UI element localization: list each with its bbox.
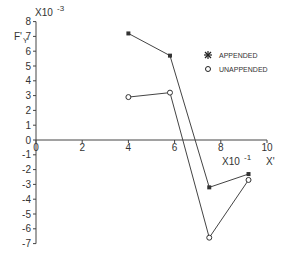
y-axis-label-subscript: Y (23, 37, 28, 44)
y-tick-label: -4 (22, 194, 31, 205)
y-tick-label: -3 (22, 179, 31, 190)
y-multiplier-exponent: -3 (57, 4, 65, 13)
x-tick-label: 6 (172, 142, 178, 153)
y-tick-label: 6 (25, 46, 31, 57)
legend-label-unappended: UNAPPENDED (219, 66, 268, 73)
y-tick-label: -6 (22, 223, 31, 234)
x-tick-label: 4 (126, 142, 132, 153)
legend: APPENDED UNAPPENDED (204, 51, 268, 73)
y-tick-label: 5 (25, 61, 31, 72)
y-tick-label: 8 (25, 16, 31, 27)
y-tick-label: 1 (25, 120, 31, 131)
x-tick-label: 10 (261, 142, 273, 153)
x-tick-label: 0 (33, 142, 39, 153)
data-point (246, 177, 251, 182)
y-tick-label: 3 (25, 90, 31, 101)
chart: -7-6-5-4-3-2-10123456780246810 F' Y X10 … (0, 0, 287, 260)
x-axis-label: X' (266, 156, 275, 167)
x-multiplier-exponent: -1 (244, 153, 252, 162)
series-layer (126, 31, 251, 240)
x-tick-label: 8 (218, 142, 224, 153)
y-tick-label: 4 (25, 75, 31, 86)
data-point (167, 90, 172, 95)
data-point (207, 185, 211, 189)
y-tick-label: -5 (22, 209, 31, 220)
data-point (168, 54, 172, 58)
x-tick-label: 2 (79, 142, 85, 153)
y-tick-label: 2 (25, 105, 31, 116)
y-tick-label: -7 (22, 238, 31, 249)
data-point (126, 31, 130, 35)
asterisk-marker-icon (204, 51, 212, 59)
circle-marker-icon (206, 67, 211, 72)
data-point (247, 172, 251, 176)
y-tick-label: -2 (22, 164, 31, 175)
y-multiplier: X10 (35, 7, 53, 18)
y-tick-label: -1 (22, 149, 31, 160)
data-point (207, 235, 212, 240)
y-axis-label: F' (14, 31, 22, 42)
y-tick-label: 0 (25, 135, 31, 146)
x-multiplier: X10 (222, 156, 240, 167)
legend-label-appended: APPENDED (219, 52, 258, 59)
data-point (126, 95, 131, 100)
